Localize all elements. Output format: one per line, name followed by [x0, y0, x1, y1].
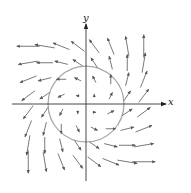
vector-field-plot	[0, 0, 191, 193]
field-arrow	[124, 91, 131, 101]
field-arrow	[93, 76, 96, 83]
field-arrow	[55, 61, 68, 64]
field-arrow	[43, 152, 46, 172]
x-axis-label: x	[168, 96, 174, 107]
field-arrow	[53, 43, 70, 50]
field-arrow	[71, 41, 84, 51]
field-arrow	[139, 89, 149, 102]
field-arrow	[121, 127, 134, 130]
field-arrow	[107, 111, 114, 114]
field-arrow	[60, 109, 63, 116]
field-arrow	[126, 36, 129, 56]
field-arrow	[73, 155, 83, 168]
field-arrow	[38, 78, 51, 81]
field-arrow	[91, 127, 98, 130]
field-arrow	[134, 144, 154, 147]
field-arrow	[137, 107, 150, 117]
field-arrow	[20, 76, 37, 83]
field-arrow	[140, 71, 147, 88]
field-arrow	[136, 125, 153, 132]
field-arrow	[58, 154, 65, 171]
field-arrow	[25, 121, 32, 138]
field-arrow	[104, 144, 117, 147]
field-arrow	[103, 158, 120, 165]
field-arrow	[18, 61, 38, 64]
field-arrow	[22, 91, 35, 101]
field-arrow	[58, 94, 65, 97]
field-arrow	[41, 107, 48, 117]
field-arrow	[76, 125, 79, 132]
field-arrow	[89, 142, 99, 149]
field-arrow	[23, 106, 33, 119]
field-arrow	[107, 38, 114, 55]
field-arrow	[43, 122, 46, 135]
field-arrow	[60, 139, 63, 152]
field-arrow	[89, 40, 99, 53]
field-arrow	[88, 157, 101, 167]
field-arrow	[73, 59, 83, 66]
field-arrow	[109, 56, 112, 69]
field-arrow	[109, 92, 112, 99]
field-arrow	[126, 73, 129, 86]
field-arrow	[74, 78, 81, 81]
y-axis-label: y	[83, 12, 89, 23]
